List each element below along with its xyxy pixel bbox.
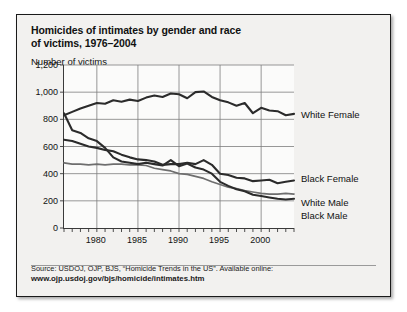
x-tick-label: 1990 [168, 235, 188, 245]
y-tick-label: 1,200 [35, 60, 58, 70]
chart-svg [64, 65, 294, 228]
source-note: Source: USDOJ, OJP, BJS, “Homicide Trend… [31, 264, 371, 284]
y-tick-label: 200 [43, 196, 58, 206]
x-tick-label: 1985 [127, 235, 147, 245]
title-line-2: of victims, 1976–2004 [31, 37, 331, 50]
y-tick-label: 400 [43, 169, 58, 179]
y-tick-label: 800 [43, 114, 58, 124]
series-label-white-male: White Male [301, 197, 349, 208]
x-axis-tick-labels: 19801985199019952000 [63, 235, 343, 251]
title-line-1: Homicides of intimates by gender and rac… [31, 24, 241, 36]
series-label-white-female: White Female [301, 108, 360, 119]
x-tick-label: 1995 [209, 235, 229, 245]
y-tick-label: 0 [53, 223, 58, 233]
y-axis-tick-labels: 02004006008001,0001,200 [17, 65, 61, 245]
chart-plot [63, 65, 294, 229]
source-text: Source: USDOJ, OJP, BJS, “Homicide Trend… [31, 264, 273, 273]
series-label-black-female: Black Female [301, 173, 359, 184]
plot-area-wrapper: 02004006008001,0001,200 1980198519901995… [17, 65, 392, 265]
series-label-black-male: Black Male [301, 209, 347, 220]
x-tick-label: 2000 [250, 235, 270, 245]
y-tick-label: 1,000 [35, 87, 58, 97]
x-tick-label: 1980 [86, 235, 106, 245]
page-title: Homicides of intimates by gender and rac… [31, 24, 331, 50]
figure-panel: Homicides of intimates by gender and rac… [16, 14, 391, 297]
y-tick-label: 600 [43, 142, 58, 152]
source-url[interactable]: www.ojp.usdoj.gov/bjs/homicide/intimates… [31, 274, 371, 284]
